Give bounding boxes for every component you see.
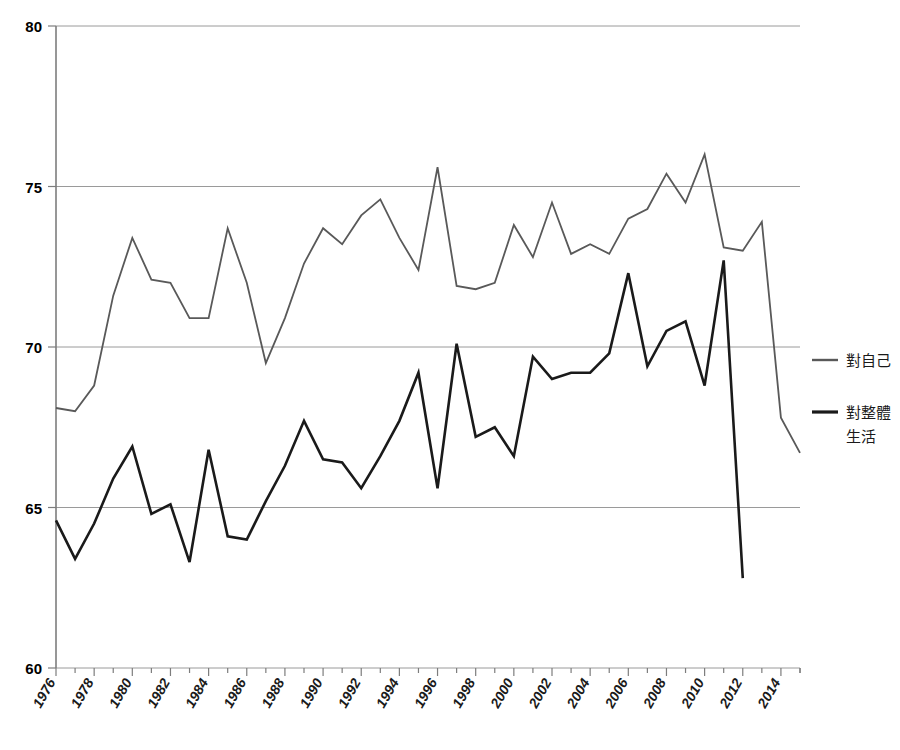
legend-label-2: 對整體 (846, 404, 891, 421)
x-tick-label-2002: 2002 (525, 675, 555, 711)
x-tick-label-2000: 2000 (487, 675, 517, 711)
y-tick-label-65: 65 (25, 500, 42, 517)
chart-canvas: 8075706560 19761978198019821984198619881… (0, 0, 900, 750)
y-tick-label-80: 80 (25, 18, 42, 35)
x-tick-label-1992: 1992 (334, 675, 364, 710)
x-tick-label-2012: 2012 (715, 675, 745, 711)
y-tick-label-70: 70 (25, 339, 42, 356)
series-line-1 (56, 154, 800, 453)
x-tick-label-1996: 1996 (411, 675, 441, 710)
x-tick-label-1998: 1998 (449, 675, 479, 710)
x-tick-label-2004: 2004 (563, 675, 593, 711)
series-line-2 (56, 260, 743, 578)
x-tick-label-2008: 2008 (639, 675, 669, 711)
y-tick-label-75: 75 (25, 179, 42, 196)
x-tick-label-1984: 1984 (182, 675, 212, 710)
x-tick-label-2006: 2006 (601, 675, 631, 711)
x-axis-tick-labels: 1976197819801982198419861988199019921994… (29, 675, 783, 711)
x-tick-label-1994: 1994 (373, 675, 403, 710)
x-tick-label-2010: 2010 (677, 675, 707, 711)
y-tick-label-60: 60 (25, 660, 42, 677)
legend-label-1: 對自己 (846, 352, 891, 369)
chart-legend: 對自己對整體生活 (812, 352, 891, 445)
x-tick-label-1982: 1982 (144, 675, 174, 710)
data-series (56, 154, 800, 578)
x-tick-label-2014: 2014 (754, 675, 784, 711)
y-axis-tick-labels: 8075706560 (25, 18, 56, 677)
x-tick-label-1990: 1990 (296, 675, 326, 710)
x-tick-label-1980: 1980 (105, 675, 135, 710)
x-tick-label-1976: 1976 (29, 675, 59, 710)
x-axis-tickmarks (56, 668, 800, 676)
x-tick-label-1988: 1988 (258, 675, 288, 710)
legend-label-2-cont: 生活 (846, 428, 876, 445)
gridlines (56, 26, 800, 668)
line-chart: 8075706560 19761978198019821984198619881… (0, 0, 900, 750)
x-tick-label-1986: 1986 (220, 675, 250, 710)
x-tick-label-1978: 1978 (67, 675, 97, 710)
